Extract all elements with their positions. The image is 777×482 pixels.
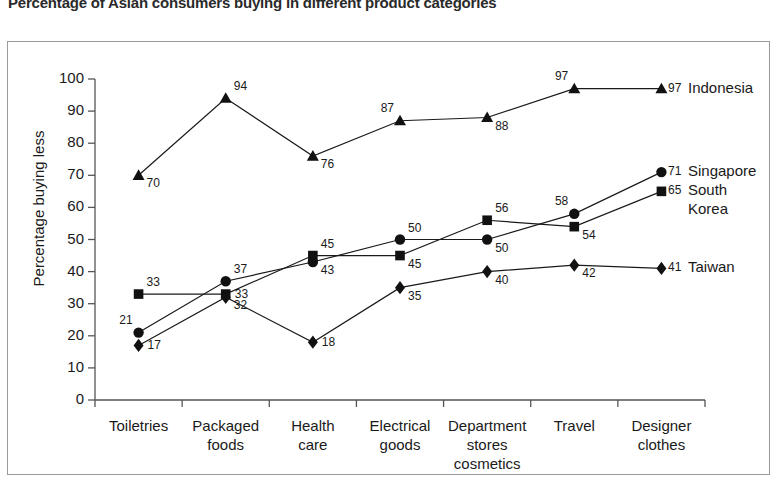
data-point-marker-circle — [569, 209, 579, 219]
data-point-marker-triangle — [481, 112, 493, 123]
data-point-marker-circle — [133, 327, 143, 337]
data-point-marker-diamond — [308, 336, 318, 349]
data-point-marker-diamond — [569, 259, 579, 272]
data-point-marker-square — [657, 187, 667, 197]
chart-page: Percentage of Asian consumers buying in … — [0, 0, 777, 482]
data-point-marker-square — [569, 222, 579, 232]
data-point-marker-triangle — [568, 83, 580, 94]
series-markers — [133, 83, 668, 352]
data-point-marker-circle — [656, 167, 666, 177]
data-point-marker-square — [134, 289, 144, 299]
data-point-marker-triangle — [220, 92, 232, 103]
data-point-marker-square — [482, 215, 492, 225]
data-point-marker-diamond — [482, 265, 492, 278]
series-lines — [139, 89, 662, 346]
data-point-marker-circle — [395, 234, 405, 244]
data-point-marker-circle — [482, 234, 492, 244]
data-point-marker-diamond — [656, 262, 666, 275]
data-point-marker-square — [308, 251, 318, 261]
data-point-marker-triangle — [307, 150, 319, 161]
data-point-marker-triangle — [655, 83, 667, 94]
data-point-marker-circle — [221, 276, 231, 286]
data-point-marker-diamond — [395, 281, 405, 294]
series-line-taiwan — [139, 265, 662, 345]
series-line-indonesia — [139, 89, 662, 176]
data-point-marker-diamond — [134, 339, 144, 352]
plot-canvas — [0, 0, 777, 482]
data-point-marker-square — [395, 251, 405, 261]
